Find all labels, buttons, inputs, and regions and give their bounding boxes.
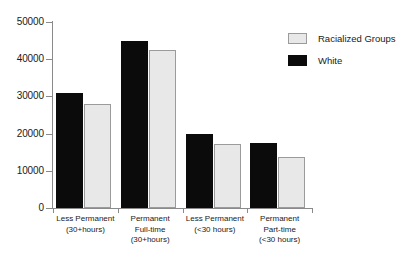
legend-item: Racialized Groups [288, 30, 396, 46]
bar [84, 104, 111, 208]
plot-area [53, 22, 312, 208]
chart-legend: Racialized GroupsWhite [288, 30, 396, 74]
y-axis-tick [46, 59, 52, 60]
y-axis-tick [46, 22, 52, 23]
bar [250, 143, 277, 208]
y-axis-tick [46, 171, 52, 172]
x-axis-tick [183, 209, 184, 213]
legend-item: White [288, 52, 396, 68]
y-axis-tick [46, 96, 52, 97]
bar-chart: 01000020000300004000050000 Less Permanen… [0, 0, 405, 262]
x-axis-tick [247, 209, 248, 213]
bar [186, 134, 213, 208]
y-axis-tick-label: 40000 [17, 54, 44, 64]
x-axis-tick [53, 209, 54, 213]
y-axis-tick [46, 208, 52, 209]
legend-label: Racialized Groups [318, 33, 396, 44]
category-label-line: Part-time [237, 225, 322, 236]
y-axis-tick-label: 0 [39, 203, 44, 213]
category-label-line: (<30 hours) [237, 235, 322, 246]
x-axis-category-label: PermanentPart-time(<30 hours) [237, 214, 322, 246]
bar [214, 144, 241, 208]
legend-label: White [318, 55, 342, 66]
x-axis-tick [118, 209, 119, 213]
category-label-line: (30+hours) [108, 235, 193, 246]
x-axis-tick [312, 209, 313, 213]
bar [278, 157, 305, 208]
y-axis-tick-label: 50000 [17, 17, 44, 27]
legend-swatch-racialized [288, 33, 307, 44]
legend-swatch-white [288, 55, 307, 66]
bar [121, 41, 148, 208]
category-label-line: Permanent [237, 214, 322, 225]
bar [56, 93, 83, 208]
y-axis-tick-label: 30000 [17, 91, 44, 101]
y-axis-tick-label: 20000 [17, 129, 44, 139]
y-axis-tick [46, 134, 52, 135]
bar [149, 50, 176, 208]
y-axis-tick-label: 10000 [17, 166, 44, 176]
